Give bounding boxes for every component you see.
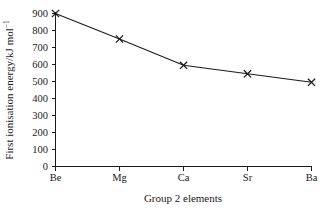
first-ionisation-energy-line-chart: First ionisation energy/kJ mol−1 0 100 2… — [0, 0, 330, 213]
y-axis-title-superscript: −1 — [2, 20, 11, 28]
y-axis-title: First ionisation energy/kJ mol−1 — [2, 20, 16, 160]
chart-figure: First ionisation energy/kJ mol−1 0 100 2… — [0, 0, 330, 213]
y-tick-label: 200 — [32, 127, 48, 138]
y-tick-label: 500 — [32, 76, 48, 87]
y-tick-label: 900 — [32, 8, 48, 19]
y-tick-label: 100 — [32, 144, 48, 155]
y-tick-label: 600 — [32, 59, 48, 70]
x-tick-label-be: Be — [50, 172, 62, 183]
x-tick-label-sr: Sr — [243, 172, 253, 183]
x-tick-label-mg: Mg — [112, 172, 127, 183]
y-tick-label: 800 — [32, 25, 48, 36]
y-tick-label: 300 — [32, 110, 48, 121]
y-axis-title-text: First ionisation energy/kJ mol — [3, 28, 15, 160]
x-tick-label-ca: Ca — [178, 172, 190, 183]
y-tick-label: 700 — [32, 42, 48, 53]
x-axis-title: Group 2 elements — [144, 192, 222, 204]
y-tick-label: 0 — [43, 161, 48, 172]
y-tick-label: 400 — [32, 93, 48, 104]
x-tick-label-ba: Ba — [306, 172, 318, 183]
